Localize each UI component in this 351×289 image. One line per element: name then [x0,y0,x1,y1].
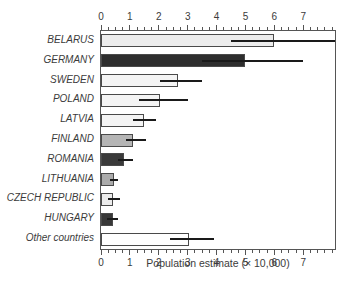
error-bar-lithuania [110,179,119,181]
x-major-tick-top [303,25,304,30]
x-minor-tick-bottom [267,250,268,253]
x-minor-tick-top [223,27,224,30]
x-minor-tick-top [108,27,109,30]
x-minor-tick-top [122,27,123,30]
x-minor-tick-top [173,27,174,30]
x-minor-tick-bottom [122,250,123,253]
x-tick-label-top: 6 [272,11,278,22]
x-minor-tick-top [288,27,289,30]
error-bar-belarus [231,40,335,42]
x-major-tick-bottom [101,250,102,255]
category-label-sweden: SWEDEN [0,74,94,85]
error-bar-germany [202,60,303,62]
x-tick-label-top: 3 [185,11,191,22]
x-major-tick-bottom [274,250,275,255]
x-major-tick-top [187,25,188,30]
x-major-tick-top [216,25,217,30]
error-bar-latvia [133,119,156,121]
x-major-tick-bottom [187,250,188,255]
category-label-hungary: HUNGARY [0,212,94,223]
x-minor-tick-bottom [324,250,325,253]
x-minor-tick-bottom [259,250,260,253]
category-label-lithuania: LITHUANIA [0,173,94,184]
x-minor-tick-bottom [238,250,239,253]
x-minor-tick-bottom [281,250,282,253]
category-label-finland: FINLAND [0,133,94,144]
x-minor-tick-bottom [144,250,145,253]
x-minor-tick-top [252,27,253,30]
x-minor-tick-top [144,27,145,30]
x-minor-tick-bottom [166,250,167,253]
x-minor-tick-top [310,27,311,30]
error-bar-sweden [160,80,202,82]
x-major-tick-top [129,25,130,30]
x-minor-tick-top [115,27,116,30]
x-major-tick-top [245,25,246,30]
x-tick-label-top: 2 [156,11,162,22]
x-minor-tick-top [194,27,195,30]
x-major-tick-bottom [216,250,217,255]
category-label-latvia: LATVIA [0,113,94,124]
x-minor-tick-top [137,27,138,30]
x-major-tick-bottom [303,250,304,255]
x-minor-tick-top [281,27,282,30]
error-bar-czech-republic [108,198,120,200]
x-tick-label-top: 4 [214,11,220,22]
x-minor-tick-top [238,27,239,30]
category-label-belarus: BELARUS [0,34,94,45]
x-minor-tick-bottom [108,250,109,253]
x-minor-tick-top [259,27,260,30]
category-label-other-countries: Other countries [0,232,94,243]
x-minor-tick-top [166,27,167,30]
x-tick-label-top: 7 [300,11,306,22]
x-tick-label-top: 1 [127,11,133,22]
x-minor-tick-bottom [310,250,311,253]
error-bar-poland [139,99,188,101]
x-minor-tick-bottom [332,250,333,253]
x-minor-tick-bottom [194,250,195,253]
x-minor-tick-top [202,27,203,30]
x-minor-tick-bottom [202,250,203,253]
x-major-tick-top [101,25,102,30]
x-major-tick-bottom [158,250,159,255]
error-bar-other-countries [170,238,213,240]
x-minor-tick-bottom [137,250,138,253]
x-minor-tick-bottom [252,250,253,253]
x-minor-tick-bottom [288,250,289,253]
x-minor-tick-bottom [115,250,116,253]
error-bar-romania [118,159,132,161]
category-label-poland: POLAND [0,93,94,104]
x-minor-tick-top [332,27,333,30]
x-minor-tick-top [209,27,210,30]
x-minor-tick-bottom [296,250,297,253]
x-minor-tick-bottom [317,250,318,253]
x-minor-tick-top [324,27,325,30]
x-minor-tick-bottom [223,250,224,253]
x-major-tick-bottom [245,250,246,255]
error-bar-finland [126,139,146,141]
category-label-czech-republic: CZECH REPUBLIC [0,192,94,203]
x-tick-label-top: 5 [243,11,249,22]
bar-chart-figure: 0011223344556677 Population estimate (× … [0,0,351,289]
category-label-germany: GERMANY [0,54,94,65]
x-minor-tick-bottom [209,250,210,253]
x-minor-tick-top [267,27,268,30]
plot-area: 0011223344556677 [100,30,336,250]
x-tick-label-top: 0 [98,11,104,22]
category-label-romania: ROMANIA [0,153,94,164]
x-minor-tick-top [296,27,297,30]
x-minor-tick-bottom [151,250,152,253]
x-minor-tick-top [317,27,318,30]
x-minor-tick-top [231,27,232,30]
x-axis-title: Population estimate (× 10,000) [100,257,336,269]
x-major-tick-bottom [129,250,130,255]
error-bar-hungary [107,218,117,220]
x-minor-tick-top [180,27,181,30]
x-major-tick-top [274,25,275,30]
x-minor-tick-bottom [173,250,174,253]
x-minor-tick-bottom [180,250,181,253]
x-minor-tick-bottom [231,250,232,253]
x-major-tick-top [158,25,159,30]
x-minor-tick-top [151,27,152,30]
